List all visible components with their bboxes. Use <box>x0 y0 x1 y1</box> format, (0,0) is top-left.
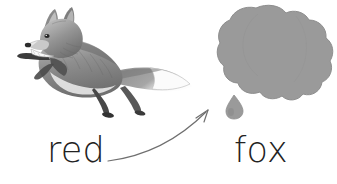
illustration-canvas: red fox <box>0 0 337 184</box>
label-red: red <box>47 133 105 168</box>
label-fox: fox <box>234 133 288 168</box>
